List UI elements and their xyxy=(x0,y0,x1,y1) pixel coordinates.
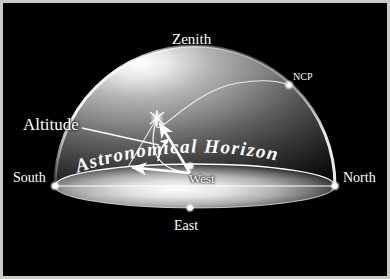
ncp-point-marker xyxy=(286,82,291,87)
ncp-label: NCP xyxy=(293,72,312,82)
east-point-marker xyxy=(187,205,193,211)
west-label: West xyxy=(189,172,215,185)
altitude-label: Altitude xyxy=(23,116,79,133)
south-point-marker xyxy=(52,183,58,189)
south-label: South xyxy=(13,171,46,185)
north-label: North xyxy=(343,171,376,185)
west-point-marker xyxy=(187,163,193,169)
zenith-label: Zenith xyxy=(172,32,211,47)
celestial-sphere-diagram: Astronomical Horizon Zenith NCP Altitude… xyxy=(0,0,390,279)
north-point-marker xyxy=(332,183,338,189)
east-label: East xyxy=(174,219,198,233)
